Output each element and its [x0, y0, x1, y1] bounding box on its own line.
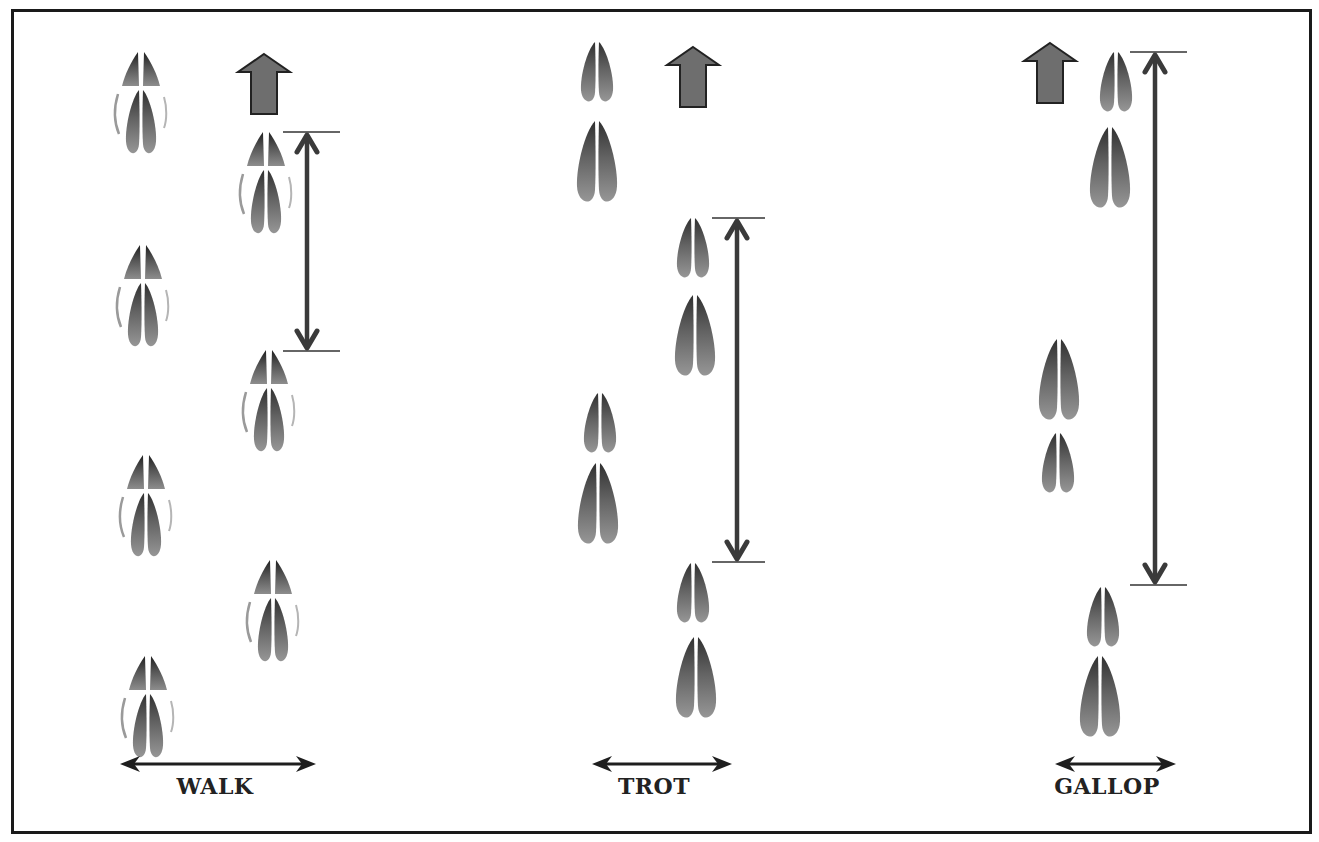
gait-label-trot: TROT: [618, 773, 690, 799]
hoofprint-walk-1: [115, 52, 166, 153]
hoofprint-gallop-5: [1087, 587, 1119, 646]
gait-diagram: [0, 0, 1319, 842]
track-width-arrow-walk: [120, 756, 316, 772]
gait-label-gallop: GALLOP: [1054, 773, 1160, 799]
stride-length-arrow-walk: [283, 132, 340, 351]
direction-arrow-walk-icon: [238, 54, 290, 114]
hoofprint-walk-2: [240, 132, 291, 233]
gait-label-walk: WALK: [177, 773, 254, 799]
stride-length-arrow-trot: [712, 218, 765, 562]
hoofprint-gallop-6: [1080, 656, 1120, 736]
hoofprint-walk-5: [120, 455, 171, 556]
hoofprint-gallop-4: [1042, 433, 1074, 492]
hoofprint-trot-6: [578, 463, 618, 543]
hoofprint-trot-4: [675, 295, 715, 375]
hoofprint-walk-3: [117, 245, 168, 346]
hoofprint-trot-5: [584, 393, 616, 452]
direction-arrow-trot-icon: [667, 47, 719, 107]
hoofprint-trot-3: [677, 218, 709, 277]
hoofprint-walk-7: [122, 656, 173, 757]
hoofprint-walk-4: [243, 350, 294, 451]
hoofprint-walk-6: [247, 560, 298, 661]
hoofprint-gallop-3: [1039, 339, 1079, 419]
track-width-arrow-trot: [592, 756, 732, 772]
hoofprint-trot-1: [581, 42, 613, 101]
direction-arrow-gallop-icon: [1024, 43, 1076, 103]
hoofprint-gallop-2: [1090, 127, 1130, 207]
stride-length-arrow-gallop: [1130, 52, 1187, 585]
hoofprint-trot-2: [577, 121, 617, 201]
hoofprint-trot-7: [677, 563, 709, 622]
hoofprint-gallop-1: [1100, 52, 1132, 111]
hoofprint-trot-8: [676, 637, 716, 717]
track-width-arrow-gallop: [1055, 756, 1176, 772]
